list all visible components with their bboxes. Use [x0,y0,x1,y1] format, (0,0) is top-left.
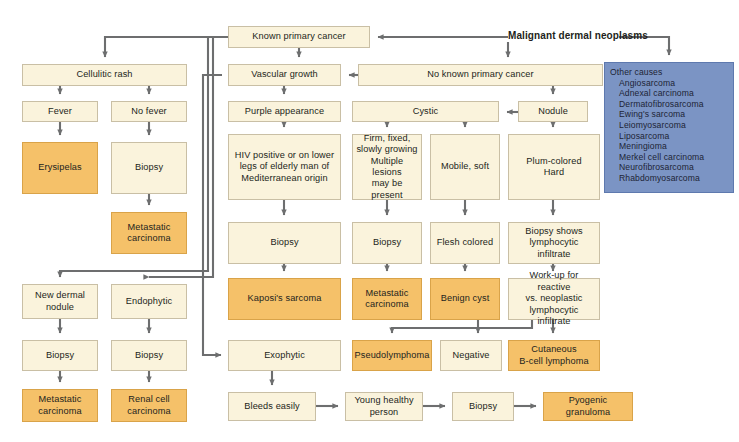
node-nodule: Nodule [518,101,588,122]
node-known-primary-cancer: Known primary cancer [228,26,370,48]
node-biopsy-firm: Biopsy [352,222,422,264]
node-cystic: Cystic [352,101,499,122]
node-biopsy-endophytic: Biopsy [111,340,187,371]
other-causes-item: Adnexal carcinoma [610,88,728,99]
diagram-title: Malignant dermal neoplasms [508,30,648,41]
node-benign-cyst: Benign cyst [430,278,500,320]
node-mobile-soft: Mobile, soft [430,134,500,200]
node-firm-fixed: Firm, fixed, slowly growing Multiple les… [352,134,422,200]
node-biopsy-pyogenic: Biopsy [452,392,514,421]
node-young-healthy-person: Young healthy person [345,392,423,421]
other-causes-heading: Other causes [610,67,728,78]
other-causes-item: Angiosarcoma [610,78,728,89]
node-fever: Fever [22,101,98,122]
node-biopsy-new-dermal: Biopsy [22,340,98,371]
node-bleeds-easily: Bleeds easily [228,392,316,421]
node-new-dermal-nodule: New dermal nodule [22,284,98,319]
node-kaposis-sarcoma: Kaposi's sarcoma [228,278,341,320]
other-causes-item: Rhabdomyosarcoma [610,173,728,184]
node-endophytic: Endophytic [111,284,187,319]
node-metastatic-carcinoma-mid: Metastatic carcinoma [352,278,422,320]
node-cellulitic-rash: Cellulitic rash [22,64,187,86]
node-exophytic: Exophytic [228,340,341,371]
node-cutaneous-b-cell-lymphoma: Cutaneous B-cell lymphoma [508,340,600,371]
node-plum-colored-hard: Plum-colored Hard [508,134,600,200]
node-vascular-growth: Vascular growth [228,64,341,86]
flowchart-canvas: Malignant dermal neoplasms Known primary… [0,0,739,442]
node-renal-cell-carcinoma: Renal cell carcinoma [111,389,187,422]
node-pseudolymphoma: Pseudolymphoma [352,340,432,371]
node-erysipelas: Erysipelas [22,142,98,194]
node-no-known-primary-cancer: No known primary cancer [358,64,603,86]
other-causes-item: Leiomyosarcoma [610,120,728,131]
other-causes-item: Dermatofibrosarcoma [610,99,728,110]
node-flesh-colored: Flesh colored [430,222,500,264]
other-causes-item: Neurofibrosarcoma [610,162,728,173]
node-biopsy-lymphocytic: Biopsy shows lymphocytic infiltrate [508,222,600,264]
node-purple-appearance: Purple appearance [228,101,341,122]
other-causes-item: Liposarcoma [610,131,728,142]
node-biopsy-no-fever: Biopsy [111,142,187,194]
node-no-fever: No fever [111,101,187,122]
other-causes-item: Merkel cell carcinoma [610,152,728,163]
node-biopsy-kaposi: Biopsy [228,222,341,264]
other-causes-item: Meningioma [610,141,728,152]
node-negative: Negative [440,340,502,371]
node-other-causes: Other causesAngiosarcomaAdnexal carcinom… [604,62,734,193]
node-metastatic-carcinoma-bottom: Metastatic carcinoma [22,389,98,422]
node-metastatic-carcinoma-top: Metastatic carcinoma [111,212,187,254]
node-work-up-reactive: Work-up for reactive vs. neoplastic lymp… [508,278,600,320]
node-pyogenic-granuloma: Pyogenic granuloma [543,392,633,421]
node-hiv-positive: HIV positive or on lower legs of elderly… [228,134,341,200]
other-causes-item: Ewing's sarcoma [610,109,728,120]
